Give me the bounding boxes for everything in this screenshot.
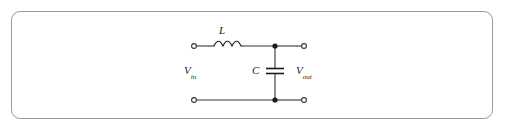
- output-voltage-symbol: V: [296, 64, 303, 76]
- inductor-label-text: L: [219, 24, 225, 36]
- capacitor-label: C: [252, 65, 259, 76]
- junction-dot-node-bottom: [272, 97, 277, 102]
- junction-dot-node-top: [272, 43, 277, 48]
- inductor-label: L: [219, 25, 225, 36]
- terminal-input-bottom: [192, 98, 197, 103]
- terminal-output-top: [302, 44, 307, 49]
- input-voltage-subscript: in: [191, 73, 196, 81]
- output-voltage-label: Vout: [296, 65, 312, 79]
- inductor-coil-icon: [214, 41, 241, 46]
- output-voltage-subscript: out: [303, 73, 312, 81]
- terminal-output-bottom: [302, 98, 307, 103]
- input-voltage-label: Vin: [184, 65, 196, 79]
- capacitor-label-text: C: [252, 64, 259, 76]
- terminal-input-top: [192, 44, 197, 49]
- figure-root: L C Vin Vout: [0, 0, 506, 132]
- input-voltage-symbol: V: [184, 64, 191, 76]
